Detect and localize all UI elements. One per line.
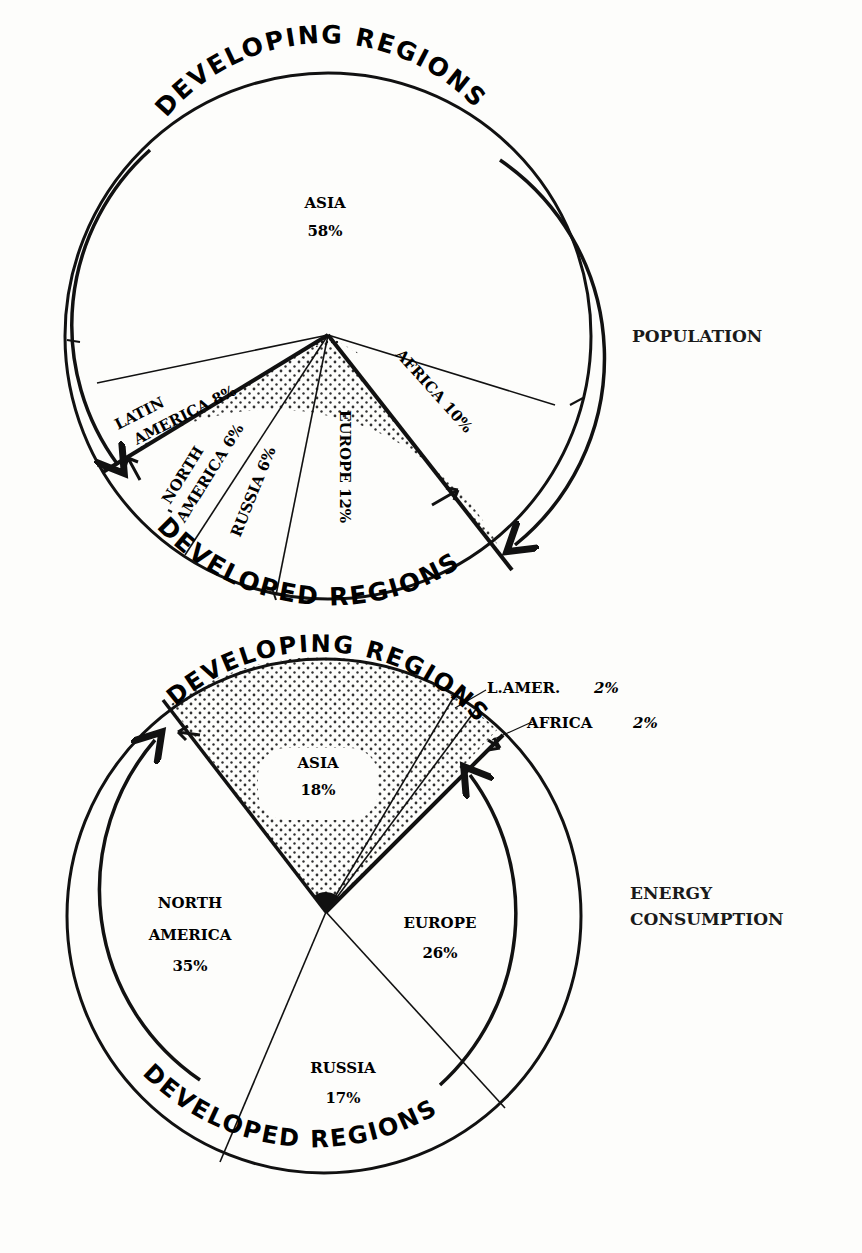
energy-latin-america-pct: 2% — [593, 679, 619, 697]
energy-asia-name: ASIA — [296, 754, 338, 772]
energy-title-line1: ENERGY — [630, 880, 784, 906]
population-inner-arc-right — [500, 160, 604, 545]
energy-russia-pct: 17% — [325, 1089, 360, 1107]
energy-russia-name: RUSSIA — [310, 1059, 376, 1077]
energy-chart-title: ENERGY CONSUMPTION — [630, 880, 784, 932]
population-pie-chart: DEVELOPING REGIONS DEVELOPED REGIONS ASI… — [65, 20, 604, 612]
energy-title-line2: CONSUMPTION — [630, 906, 784, 932]
population-developed-label: DEVELOPED REGIONS — [152, 511, 465, 611]
population-asia-name: ASIA — [303, 194, 345, 212]
energy-europe-pct: 26% — [422, 944, 457, 962]
population-chart-title: POPULATION — [632, 323, 762, 349]
energy-north-america-line1: NORTH — [158, 894, 222, 912]
population-europe-label: EUROPE 12% — [336, 410, 354, 523]
svg-text:DEVELOPED REGIONS: DEVELOPED REGIONS — [152, 511, 465, 611]
energy-latin-america-name: L.AMER. — [487, 679, 560, 697]
population-asia-pct: 58% — [307, 222, 342, 240]
energy-africa-pct: 2% — [632, 714, 658, 732]
energy-pie-chart: DEVELOPING REGIONS DEVELOPED REGIONS ASI… — [67, 630, 658, 1173]
energy-europe-name: EUROPE — [404, 914, 477, 932]
svg-text:DEVELOPED REGIONS: DEVELOPED REGIONS — [138, 1058, 443, 1153]
energy-north-america-line2: AMERICA — [148, 926, 232, 944]
energy-asia-pct: 18% — [300, 781, 335, 799]
energy-north-america-pct: 35% — [172, 957, 207, 975]
energy-africa-name: AFRICA — [526, 714, 593, 732]
energy-developed-label: DEVELOPED REGIONS — [138, 1058, 443, 1153]
population-africa-label: AFRICA 10% — [391, 345, 476, 436]
population-russia-label: RUSSIA 6% — [227, 444, 279, 539]
